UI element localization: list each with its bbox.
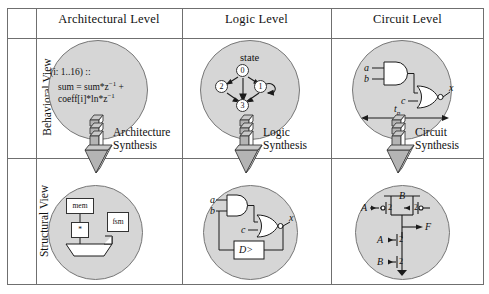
cmos-width-pmos-right: 2 bbox=[414, 203, 418, 212]
cmos-input-b-pmos: B bbox=[399, 190, 405, 201]
cmos-input-b-nmos: B bbox=[377, 256, 383, 267]
cmos-width-pmos-left: 2 bbox=[388, 203, 392, 212]
cmos-width-nmos-top: 2 bbox=[399, 235, 403, 244]
figure-canvas: Architectural Level Logic Level Circuit … bbox=[0, 0, 489, 294]
cmos-output-f: F bbox=[425, 221, 431, 232]
cmos-input-a-pmos: A bbox=[361, 202, 367, 213]
cmos-input-a-nmos: A bbox=[377, 234, 383, 245]
cmos-width-nmos-bottom: 2 bbox=[399, 257, 403, 266]
cmos-nand-schematic bbox=[0, 0, 489, 294]
